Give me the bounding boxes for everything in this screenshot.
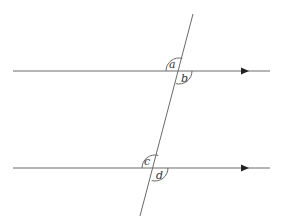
top-line-arrow-icon [241,68,249,75]
transversal-line [140,14,193,216]
angle-b-label: b [181,72,188,85]
angle-d-label: d [156,169,163,182]
angle-c-label: c [144,155,150,168]
parallel-lines-transversal-diagram: a b c d [0,0,285,219]
angle-a-label: a [169,58,176,71]
bottom-line-arrow-icon [241,165,249,172]
